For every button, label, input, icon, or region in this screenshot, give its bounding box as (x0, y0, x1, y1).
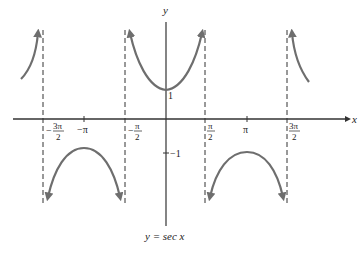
y-tick-1: 1 (168, 90, 173, 101)
svg-text:−: − (46, 125, 52, 136)
branch-right-up (292, 33, 309, 82)
svg-text:−: − (128, 125, 134, 136)
caption: y = sec x (144, 230, 185, 242)
x-axis-label: x (351, 113, 357, 125)
x-tick-neg-pi: −π (77, 124, 88, 135)
svg-text:2: 2 (56, 132, 61, 142)
asymptotes (43, 30, 287, 205)
y-tick-neg1: −1 (170, 148, 181, 159)
x-tick-pi: π (243, 124, 248, 135)
sec-graph: y x 1 −1 − 3π 2 −π − π 2 π 2 π 3π 2 y = … (0, 0, 364, 253)
branch-neg-right-down (210, 152, 283, 197)
x-tick-pi-2: π 2 (207, 121, 215, 142)
svg-text:2: 2 (292, 132, 297, 142)
svg-text:π: π (135, 121, 140, 131)
branch-left-up (21, 33, 38, 79)
sec-curves (21, 33, 309, 197)
svg-text:π: π (208, 121, 213, 131)
branch-neg-left-down (48, 148, 120, 197)
svg-text:3π: 3π (53, 121, 63, 131)
x-tick-neg-3pi-2: − 3π 2 (46, 121, 64, 142)
x-tick-neg-pi-2: − π 2 (128, 121, 142, 142)
x-axis-arrow-icon (345, 116, 351, 122)
svg-text:3π: 3π (289, 121, 299, 131)
svg-text:2: 2 (208, 132, 213, 142)
x-tick-3pi-2: 3π 2 (289, 121, 300, 142)
svg-text:2: 2 (135, 132, 140, 142)
y-axis-label: y (162, 4, 168, 16)
